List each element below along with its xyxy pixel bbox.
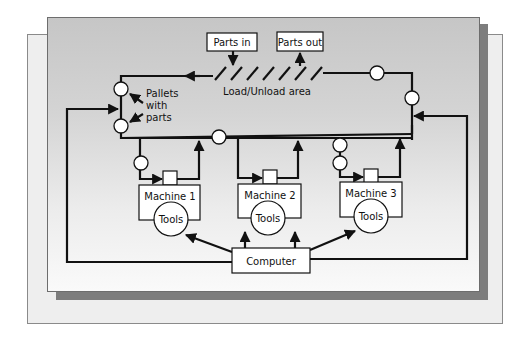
pallet-circle — [212, 130, 226, 144]
pallet-circle — [333, 138, 347, 152]
pallets-label-2: with — [146, 100, 167, 111]
fms-diagram: Parts in Parts out Load/Unload area Pall… — [0, 0, 527, 340]
machine-1-label: Machine 1 — [144, 191, 195, 202]
machine-3-fixture — [364, 169, 378, 183]
pallet-circle — [333, 156, 347, 170]
machine-2-fixture — [263, 170, 277, 184]
pallet-circle — [405, 91, 419, 105]
machine-1-fixture — [163, 171, 177, 185]
load-unload-label: Load/Unload area — [223, 86, 311, 97]
pallets-label-1: Pallets — [146, 88, 179, 99]
parts-in-label: Parts in — [213, 37, 250, 48]
loop-top-right — [323, 73, 412, 134]
load-unload-slashes — [215, 67, 322, 80]
pallet-circle — [134, 156, 148, 170]
pallet-circle — [114, 82, 128, 96]
pallet-circle — [370, 66, 384, 80]
parts-out-label: Parts out — [278, 37, 323, 48]
machine-2-label: Machine 2 — [244, 190, 295, 201]
tools-1-label: Tools — [158, 214, 184, 225]
computer-label: Computer — [246, 256, 297, 267]
tools-3-label: Tools — [358, 211, 384, 222]
pallets-label-3: parts — [146, 112, 172, 123]
pallet-circle — [114, 119, 128, 133]
machine-3-label: Machine 3 — [345, 188, 396, 199]
tools-2-label: Tools — [255, 213, 281, 224]
